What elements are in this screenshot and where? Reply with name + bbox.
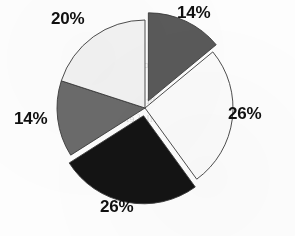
slice-label-14-top-right: 14% <box>177 3 210 23</box>
slice-label-26-bottom: 26% <box>100 197 133 217</box>
slice-label-14-left: 14% <box>14 109 47 129</box>
slice-label-20-top-left: 20% <box>51 9 84 29</box>
pie-chart-figure: onnis etnelav era lanoitan ro eht a stej… <box>0 0 295 236</box>
slice-label-26-right: 26% <box>228 104 261 124</box>
